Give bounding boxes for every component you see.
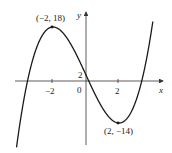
- max-point-marker: [51, 26, 54, 29]
- x-tick-label-neg2: −2: [45, 86, 55, 96]
- x-axis-label: x: [158, 85, 163, 95]
- y-tick-label-2: 2: [78, 70, 83, 80]
- max-point-label: (−2, 18): [36, 13, 65, 23]
- x-tick-label-pos2: 2: [115, 86, 120, 96]
- origin-label: 0: [77, 85, 82, 95]
- cubic-function-plot: (−2, 18) (2, −14) −2 2 0 2 x y: [0, 0, 172, 153]
- min-point-label: (2, −14): [104, 126, 133, 136]
- min-point-marker: [117, 122, 120, 125]
- y-axis-label: y: [76, 10, 81, 20]
